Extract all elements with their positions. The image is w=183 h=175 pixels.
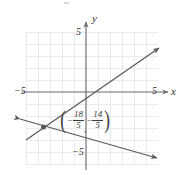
open-paren: (: [60, 110, 66, 130]
x-axis-tick-label-neg5: −5: [14, 86, 26, 96]
intersection-point-label: ( − 18 5 , − 14 5 ): [59, 110, 112, 130]
coordinate-plane-figure: −5 5 5 −5 x y ( − 18 5 , − 14 5 ): [0, 0, 183, 175]
close-paren: ): [105, 110, 111, 130]
x-numerator: 18: [73, 110, 84, 119]
y-coordinate-fraction: 14 5: [92, 110, 103, 130]
y-axis-tick-label-neg5: −5: [72, 147, 84, 157]
x-coordinate-value: − 18 5: [67, 110, 84, 130]
y-numerator: 14: [92, 110, 103, 119]
intersection-point-marker: [41, 125, 46, 130]
grid-lines: [26, 32, 158, 164]
x-axis-tick-label-pos5: 5: [152, 86, 157, 96]
x-coordinate-fraction: 18 5: [73, 110, 84, 130]
coordinate-comma: ,: [84, 125, 87, 134]
y-denominator: 5: [94, 121, 101, 130]
y-axis-label: y: [92, 13, 97, 24]
y-axis-tick-label-pos5: 5: [76, 27, 81, 37]
y-coordinate-value: − 14 5: [87, 110, 104, 130]
x-axis-label: x: [171, 86, 176, 97]
x-denominator: 5: [75, 121, 82, 130]
